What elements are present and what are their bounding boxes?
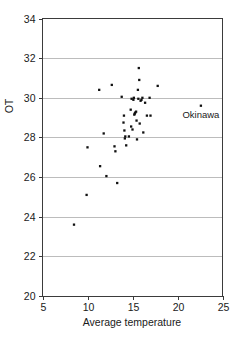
y-tick-label-32: 32 [24, 52, 36, 64]
data-point [138, 79, 140, 81]
data-point [85, 194, 87, 196]
annotation-label-okinawa: Okinawa [182, 109, 220, 120]
chart-canvas: 2022242628303234 510152025 Okinawa Avera… [0, 0, 245, 339]
data-point [137, 89, 139, 91]
data-point [136, 138, 138, 140]
data-point [135, 111, 137, 113]
data-point [73, 223, 75, 225]
data-point [142, 131, 144, 133]
data-point [114, 150, 116, 152]
data-point [140, 99, 142, 101]
data-point [111, 84, 113, 86]
data-point [98, 89, 100, 91]
data-point [122, 121, 124, 123]
data-point [132, 99, 134, 101]
grid-lines [43, 59, 223, 257]
data-point [99, 165, 101, 167]
x-tick-label-20: 20 [173, 301, 185, 313]
data-point [113, 145, 115, 147]
data-point [141, 97, 143, 99]
y-tick-label-24: 24 [24, 211, 36, 223]
y-tick-label-28: 28 [24, 131, 36, 143]
data-point [144, 102, 146, 104]
data-point [128, 135, 130, 137]
y-tick-label-20: 20 [24, 290, 36, 302]
data-point [149, 114, 151, 116]
y-tick-label-26: 26 [24, 171, 36, 183]
data-point [139, 122, 141, 124]
x-tick-label-15: 15 [128, 301, 140, 313]
data-point [125, 144, 127, 146]
plot-border [43, 19, 223, 297]
data-point [137, 98, 139, 100]
data-point [130, 125, 132, 127]
data-point [130, 109, 132, 111]
data-point [103, 132, 105, 134]
data-point [124, 135, 126, 137]
data-point [123, 114, 125, 116]
plot-frame [43, 19, 223, 297]
y-axis-ticks: 2022242628303234 [24, 13, 43, 302]
x-axis-title: Average temperature [83, 316, 182, 328]
y-tick-label-22: 22 [24, 250, 36, 262]
data-point [105, 175, 107, 177]
x-tick-label-25: 25 [218, 301, 230, 313]
x-tick-label-10: 10 [83, 301, 95, 313]
data-point [131, 128, 133, 130]
x-tick-label-5: 5 [41, 301, 47, 313]
data-point [146, 114, 148, 116]
scatter-plot-figure: 2022242628303234 510152025 Okinawa Avera… [0, 0, 245, 339]
data-point [200, 105, 202, 107]
y-tick-label-34: 34 [24, 13, 36, 25]
y-tick-label-30: 30 [24, 92, 36, 104]
data-point [133, 97, 135, 99]
data-point [157, 85, 159, 87]
data-points [73, 67, 202, 226]
data-point [121, 96, 123, 98]
data-point [135, 119, 137, 121]
data-point [124, 137, 126, 139]
data-point [148, 97, 150, 99]
data-point [86, 146, 88, 148]
y-axis-title: OT [3, 98, 15, 113]
data-point [116, 182, 118, 184]
data-point [123, 129, 125, 131]
data-point [138, 67, 140, 69]
point-annotations: Okinawa [182, 109, 220, 120]
x-axis-ticks: 510152025 [41, 296, 230, 313]
